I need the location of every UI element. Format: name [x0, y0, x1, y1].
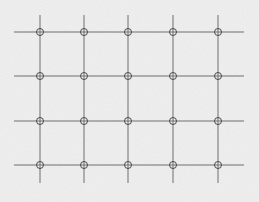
grid-diagram	[0, 0, 259, 202]
background-texture	[0, 0, 259, 202]
